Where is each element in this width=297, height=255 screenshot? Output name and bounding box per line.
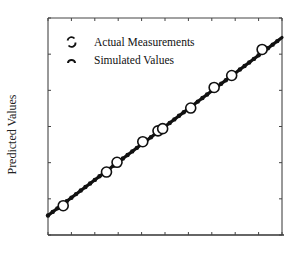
legend-simulated-label: Simulated Values bbox=[94, 54, 174, 66]
actual-measurement-point bbox=[102, 167, 112, 177]
actual-measurement-point bbox=[138, 137, 148, 147]
scatter-plot: Actual Measurements Simulated Values bbox=[0, 0, 297, 255]
actual-measurement-point bbox=[227, 71, 237, 81]
actual-measurement-point bbox=[209, 82, 219, 92]
legend: Actual Measurements Simulated Values bbox=[68, 36, 196, 66]
actual-measurement-point bbox=[257, 44, 267, 54]
legend-simulated-marker-icon bbox=[68, 60, 75, 63]
legend-actual-marker-icon bbox=[68, 37, 76, 47]
actual-measurement-point bbox=[186, 103, 196, 113]
y-axis-label: Predicted Values bbox=[5, 85, 20, 185]
legend-actual-label: Actual Measurements bbox=[94, 36, 195, 48]
actual-measurement-point bbox=[158, 124, 168, 134]
actual-measurement-point bbox=[58, 201, 68, 211]
actual-measurement-point bbox=[112, 157, 122, 167]
